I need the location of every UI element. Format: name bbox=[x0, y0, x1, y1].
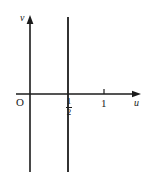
fraction-one-half: 1 2 bbox=[66, 97, 73, 118]
fraction-numerator: 1 bbox=[66, 97, 73, 106]
figure-canvas bbox=[0, 0, 150, 185]
tick-label-one: 1 bbox=[101, 98, 107, 109]
v-axis-label: v bbox=[20, 13, 24, 23]
fraction-denominator: 2 bbox=[66, 108, 73, 117]
u-axis-label: u bbox=[134, 98, 139, 108]
v-axis-arrowhead-icon bbox=[27, 15, 34, 24]
coordinate-plane-figure: v u O 1 2 1 bbox=[0, 0, 150, 185]
tick-label-one-half: 1 2 bbox=[62, 97, 76, 118]
origin-label: O bbox=[16, 97, 24, 108]
u-axis bbox=[16, 91, 141, 97]
